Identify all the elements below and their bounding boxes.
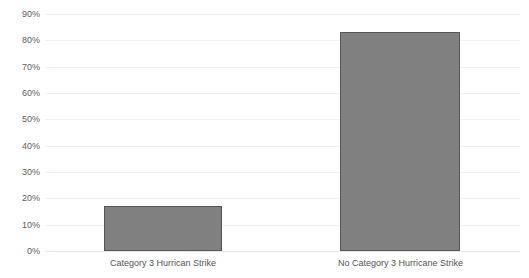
gridline [45, 14, 520, 15]
y-axis: 90% 80% 70% 60% 50% 40% 30% 20% 10% 0% [0, 14, 40, 251]
y-tick-label: 80% [6, 36, 40, 45]
y-tick-label: 50% [6, 115, 40, 124]
y-tick-label: 40% [6, 141, 40, 150]
bar-category-3-hurrican-strike[interactable] [104, 206, 222, 251]
x-axis-line [45, 251, 520, 252]
y-tick-label: 20% [6, 194, 40, 203]
y-tick-label: 60% [6, 88, 40, 97]
y-tick-label: 70% [6, 62, 40, 71]
bar-chart: 90% 80% 70% 60% 50% 40% 30% 20% 10% 0% C… [0, 0, 529, 278]
y-tick-label: 30% [6, 167, 40, 176]
y-tick-label: 90% [6, 10, 40, 19]
bar-no-category-3-hurricane-strike[interactable] [340, 32, 460, 251]
plot-area [45, 14, 520, 251]
y-tick-label: 0% [6, 247, 40, 256]
y-tick-label: 10% [6, 220, 40, 229]
x-tick-label-category-3-hurrican-strike: Category 3 Hurrican Strike [45, 259, 281, 269]
x-tick-label-no-category-3-hurricane-strike: No Category 3 Hurricane Strike [281, 259, 520, 269]
